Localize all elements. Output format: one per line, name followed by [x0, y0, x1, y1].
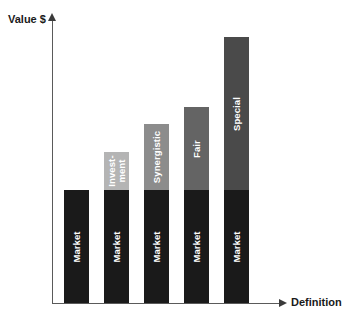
bar-segment-market-5[interactable]: Market — [224, 190, 249, 303]
bar-segment-market-1[interactable]: Market — [64, 190, 89, 303]
bar-segment-label: Invest-ment — [107, 152, 127, 190]
bar-segment-fair-4[interactable]: Fair — [184, 107, 209, 190]
bar-segment-investment-2[interactable]: Invest-ment — [104, 152, 129, 190]
bar-segment-label: Market — [112, 231, 122, 262]
bar-segment-market-4[interactable]: Market — [184, 190, 209, 303]
bar-group-2[interactable]: Invest-ment Market — [104, 152, 129, 303]
bar-group-5[interactable]: Special Market — [224, 37, 249, 303]
bar-segment-market-2[interactable]: Market — [104, 190, 129, 303]
bar-segment-synergistic-3[interactable]: Synergistic — [144, 124, 169, 190]
bar-segment-special-5[interactable]: Special — [224, 37, 249, 190]
bar-segment-label: Fair — [192, 140, 202, 158]
bar-segment-label: Special — [232, 97, 242, 131]
bar-segment-label: Market — [232, 231, 242, 262]
bar-segment-label: Market — [72, 231, 82, 262]
bar-group-3[interactable]: Synergistic Market — [144, 124, 169, 303]
bar-segment-label: Market — [152, 231, 162, 262]
bar-group-4[interactable]: Fair Market — [184, 107, 209, 303]
bar-segment-market-3[interactable]: Market — [144, 190, 169, 303]
bar-group-1[interactable]: Market — [64, 190, 89, 303]
bar-segment-label: Market — [192, 231, 202, 262]
bar-segment-label: Synergistic — [152, 131, 162, 183]
